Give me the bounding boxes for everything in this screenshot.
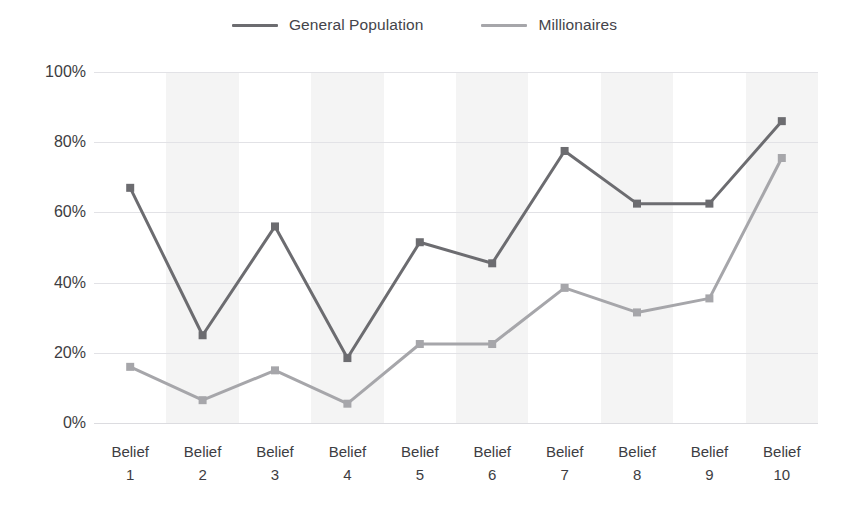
data-point-marker <box>488 340 496 348</box>
legend-label-general-population: General Population <box>289 16 424 34</box>
data-point-marker <box>633 200 641 208</box>
legend-swatch-general-population <box>232 24 278 27</box>
data-point-marker <box>488 259 496 267</box>
y-axis-label-60: 60% <box>0 203 86 221</box>
gridline-0 <box>94 423 818 424</box>
x-axis-label-belief-7: Belief7 <box>528 440 600 504</box>
x-axis-label-belief-10: Belief10 <box>746 440 818 504</box>
data-point-marker <box>778 154 786 162</box>
data-point-marker <box>271 366 279 374</box>
legend-item-millionaires: Millionaires <box>481 16 617 34</box>
x-axis-label-belief-3: Belief3 <box>239 440 311 504</box>
data-point-marker <box>199 331 207 339</box>
x-axis-label-belief-1: Belief1 <box>94 440 166 504</box>
series-layer <box>94 72 818 423</box>
data-point-marker <box>343 400 351 408</box>
y-axis-label-20: 20% <box>0 344 86 362</box>
data-point-marker <box>561 147 569 155</box>
x-axis-label-belief-5: Belief5 <box>384 440 456 504</box>
series-line <box>130 121 782 358</box>
data-point-marker <box>705 294 713 302</box>
series-line <box>130 158 782 404</box>
data-point-marker <box>343 354 351 362</box>
data-point-marker <box>633 308 641 316</box>
series-general-population <box>126 117 786 362</box>
x-axis-label-belief-9: Belief9 <box>673 440 745 504</box>
legend-swatch-millionaires <box>481 24 527 27</box>
x-axis-label-belief-2: Belief2 <box>166 440 238 504</box>
data-point-marker <box>561 284 569 292</box>
x-axis-label-belief-6: Belief6 <box>456 440 528 504</box>
y-axis-label-0: 0% <box>0 414 86 432</box>
legend-label-millionaires: Millionaires <box>538 16 617 34</box>
data-point-marker <box>126 184 134 192</box>
x-axis-label-belief-4: Belief4 <box>311 440 383 504</box>
data-point-marker <box>416 238 424 246</box>
chart-legend: General Population Millionaires <box>0 16 849 34</box>
line-chart: General Population Millionaires 0%20%40%… <box>0 0 849 523</box>
y-axis-label-100: 100% <box>0 63 86 81</box>
data-point-marker <box>126 363 134 371</box>
x-axis: Belief1Belief2Belief3Belief4Belief5Belie… <box>94 440 818 504</box>
y-axis: 0%20%40%60%80%100% <box>0 0 86 523</box>
data-point-marker <box>416 340 424 348</box>
data-point-marker <box>199 396 207 404</box>
plot-area <box>94 72 818 423</box>
series-millionaires <box>126 154 786 408</box>
data-point-marker <box>271 222 279 230</box>
x-axis-label-belief-8: Belief8 <box>601 440 673 504</box>
data-point-marker <box>778 117 786 125</box>
legend-item-general-population: General Population <box>232 16 424 34</box>
data-point-marker <box>705 200 713 208</box>
y-axis-label-40: 40% <box>0 274 86 292</box>
y-axis-label-80: 80% <box>0 133 86 151</box>
